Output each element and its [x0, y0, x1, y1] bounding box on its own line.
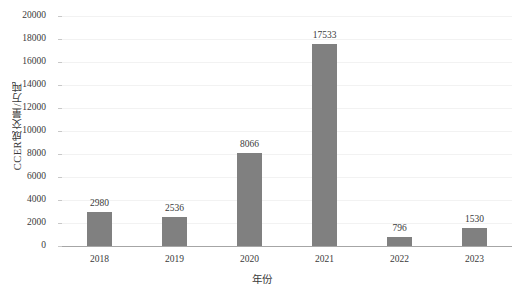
bar[interactable] — [237, 153, 262, 246]
y-tick-label: 12000 — [22, 103, 46, 113]
bar-value-label: 17533 — [295, 30, 355, 40]
bar-value-label: 796 — [370, 223, 430, 233]
y-tick-label: 0 — [41, 241, 46, 251]
plot-area: 298025368066175337961530 — [62, 16, 512, 246]
bar-value-label: 8066 — [220, 139, 280, 149]
bar-value-label: 1530 — [445, 214, 505, 224]
x-tick-label: 2018 — [70, 254, 130, 264]
x-tick-label: 2019 — [145, 254, 205, 264]
bar[interactable] — [312, 44, 337, 246]
y-tick-label: 6000 — [27, 172, 46, 182]
y-tick-label: 20000 — [22, 11, 46, 21]
bar-value-label: 2536 — [145, 203, 205, 213]
x-axis-title: 年份 — [0, 274, 523, 286]
y-tick-label: 10000 — [22, 126, 46, 136]
gridline — [62, 85, 512, 86]
bar[interactable] — [87, 212, 112, 246]
x-tick-label: 2021 — [295, 254, 355, 264]
gridline — [62, 108, 512, 109]
y-tick-mark — [58, 16, 62, 17]
y-tick-label: 16000 — [22, 57, 46, 67]
bar-value-label: 2980 — [70, 198, 130, 208]
x-axis-line — [62, 246, 512, 247]
x-tick-label: 2022 — [370, 254, 430, 264]
y-tick-mark — [58, 223, 62, 224]
y-tick-label: 8000 — [27, 149, 46, 159]
y-tick-label: 18000 — [22, 34, 46, 44]
y-tick-mark — [58, 62, 62, 63]
y-tick-mark — [58, 200, 62, 201]
y-tick-mark — [58, 39, 62, 40]
bar[interactable] — [462, 228, 487, 246]
y-tick-mark — [58, 154, 62, 155]
bar[interactable] — [162, 217, 187, 246]
gridline — [62, 131, 512, 132]
bar-chart: CCER成交量/万吨 02000400060008000100001200014… — [0, 0, 523, 297]
gridline — [62, 154, 512, 155]
bar[interactable] — [387, 237, 412, 246]
gridline — [62, 200, 512, 201]
gridline — [62, 39, 512, 40]
y-tick-label: 2000 — [27, 218, 46, 228]
y-axis-tick-labels: 0200040006000800010000120001400016000180… — [0, 0, 57, 297]
y-tick-mark — [58, 85, 62, 86]
gridline — [62, 177, 512, 178]
y-tick-mark — [58, 177, 62, 178]
y-tick-mark — [58, 131, 62, 132]
y-tick-label: 14000 — [22, 80, 46, 90]
gridline — [62, 16, 512, 17]
x-tick-label: 2020 — [220, 254, 280, 264]
gridline — [62, 62, 512, 63]
y-tick-label: 4000 — [27, 195, 46, 205]
y-tick-mark — [58, 108, 62, 109]
x-tick-label: 2023 — [445, 254, 505, 264]
